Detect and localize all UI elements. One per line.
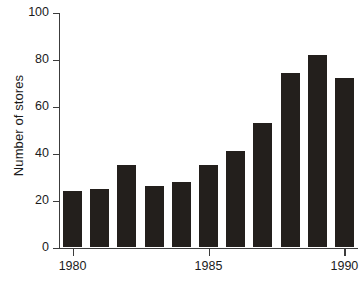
bar-1987 xyxy=(253,123,272,248)
bar-1986 xyxy=(226,151,245,247)
y-tick-80: 80 xyxy=(53,60,59,61)
bar-1983 xyxy=(145,186,164,247)
y-tick-20: 20 xyxy=(53,201,59,202)
bar-1980 xyxy=(63,191,82,247)
y-tick-label-60: 60 xyxy=(35,99,49,113)
y-tick-label-40: 40 xyxy=(35,146,49,160)
y-tick-label-80: 80 xyxy=(35,52,49,66)
y-tick-label-100: 100 xyxy=(28,5,49,19)
x-tick-1990 xyxy=(344,249,345,256)
y-tick-100: 100 xyxy=(53,13,59,14)
x-tick-1980 xyxy=(73,249,74,256)
bar-1981 xyxy=(90,189,109,248)
bar-1984 xyxy=(172,182,191,248)
bar-1989 xyxy=(308,55,327,248)
x-tick-label-1990: 1990 xyxy=(331,259,359,273)
bar-1985 xyxy=(199,165,218,247)
bar-1988 xyxy=(281,73,300,247)
x-tick-label-1985: 1985 xyxy=(195,259,223,273)
y-tick-40: 40 xyxy=(53,154,59,155)
bar-1982 xyxy=(117,165,136,247)
y-tick-0: 0 xyxy=(53,248,59,249)
bar-chart: Number of stores 020406080100 1980198519… xyxy=(0,0,364,289)
y-axis-label: Number of stores xyxy=(11,36,26,216)
x-tick-1985 xyxy=(209,249,210,256)
plot-area: 020406080100 198019851990 xyxy=(59,13,358,248)
y-tick-60: 60 xyxy=(53,107,59,108)
x-tick-label-1980: 1980 xyxy=(59,259,87,273)
y-axis-line xyxy=(59,13,60,249)
y-tick-label-20: 20 xyxy=(35,193,49,207)
bar-1990 xyxy=(335,78,354,247)
y-tick-label-0: 0 xyxy=(42,240,49,254)
